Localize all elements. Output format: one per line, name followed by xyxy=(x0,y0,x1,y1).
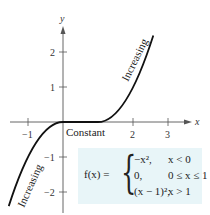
case-1-condition: x < 0 xyxy=(168,153,191,165)
case-3-condition: x > 1 xyxy=(168,185,191,197)
case-3-expr: (x − 1)², xyxy=(134,185,170,197)
case-2-expr: 0, xyxy=(134,169,142,181)
x-axis-label: x xyxy=(194,116,200,127)
y-tick-label: 2 xyxy=(50,47,55,58)
y-axis-arrow-icon xyxy=(61,26,66,34)
annotation-increasing-left: Increasing xyxy=(15,162,45,209)
y-tick-label: 1 xyxy=(50,82,55,93)
x-axis-arrow-icon xyxy=(184,120,192,125)
case-2-condition: 0 ≤ x ≤ 1 xyxy=(168,169,208,181)
x-tick-label: −1 xyxy=(22,129,33,140)
case-1-expr: −x², xyxy=(134,153,152,165)
y-tick-label: −1 xyxy=(44,152,55,163)
piecewise-formula-box: f(x) = { −x², x < 0 0, 0 ≤ x ≤ 1 (x − 1)… xyxy=(78,148,202,204)
y-tick-label: −2 xyxy=(44,187,55,198)
annotation-constant: Constant xyxy=(66,126,105,138)
formula-lhs: f(x) = xyxy=(84,168,109,180)
y-axis-label: y xyxy=(59,13,65,24)
x-tick-label: 2 xyxy=(130,129,135,140)
x-tick-label: 3 xyxy=(165,129,170,140)
